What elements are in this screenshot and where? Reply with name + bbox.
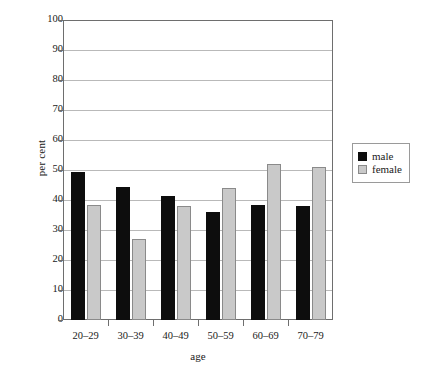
bar-male-50-59[interactable]: [206, 212, 220, 320]
bar-female-50-59[interactable]: [222, 188, 236, 320]
legend-item-female[interactable]: female: [358, 164, 402, 175]
y-tick-mark-50: [58, 170, 63, 171]
x-axis-title: age: [63, 350, 333, 362]
y-tick-mark-30: [58, 230, 63, 231]
bar-female-20-29[interactable]: [87, 205, 101, 321]
bar-female-30-39[interactable]: [132, 239, 146, 320]
bar-male-30-39[interactable]: [116, 187, 130, 321]
y-axis: per cent 0102030405060708090100: [22, 0, 63, 378]
x-tick-mark-2: [153, 320, 154, 326]
bar-male-40-49[interactable]: [161, 196, 175, 321]
bar-chart: per cent 0102030405060708090100 age male…: [0, 0, 425, 378]
y-tick-mark-20: [58, 260, 63, 261]
y-tick-label-40: 40: [33, 194, 63, 204]
legend-label-male: male: [372, 151, 393, 162]
bar-male-60-69[interactable]: [251, 205, 265, 321]
y-tick-mark-80: [58, 80, 63, 81]
x-tick-mark-5: [288, 320, 289, 326]
y-tick-label-100: 100: [33, 14, 63, 24]
y-tick-mark-70: [58, 110, 63, 111]
y-tick-label-10: 10: [33, 284, 63, 294]
black-square-icon: [358, 152, 367, 161]
legend-label-female: female: [372, 164, 402, 175]
bar-female-40-49[interactable]: [177, 206, 191, 320]
y-tick-label-70: 70: [33, 104, 63, 114]
y-tick-mark-40: [58, 200, 63, 201]
x-tick-mark-4: [243, 320, 244, 326]
x-tick-label-70-79: 70–79: [281, 330, 341, 341]
y-tick-label-20: 20: [33, 254, 63, 264]
y-tick-mark-10: [58, 290, 63, 291]
y-tick-label-80: 80: [33, 74, 63, 84]
legend: male female: [352, 143, 410, 183]
gray-square-icon: [358, 165, 367, 174]
y-tick-label-60: 60: [33, 134, 63, 144]
y-tick-mark-60: [58, 140, 63, 141]
bar-female-70-79[interactable]: [312, 167, 326, 320]
y-tick-label-50: 50: [33, 164, 63, 174]
y-tick-mark-0: [58, 320, 63, 321]
bar-male-70-79[interactable]: [296, 206, 310, 320]
legend-item-male[interactable]: male: [358, 151, 402, 162]
bar-male-20-29[interactable]: [71, 172, 85, 321]
x-tick-mark-1: [108, 320, 109, 326]
bar-female-60-69[interactable]: [267, 164, 281, 320]
x-tick-mark-3: [198, 320, 199, 326]
y-tick-label-0: 0: [33, 314, 63, 324]
y-tick-mark-100: [58, 20, 63, 21]
y-tick-label-90: 90: [33, 44, 63, 54]
y-tick-mark-90: [58, 50, 63, 51]
bars-layer: [63, 20, 333, 320]
y-tick-label-30: 30: [33, 224, 63, 234]
